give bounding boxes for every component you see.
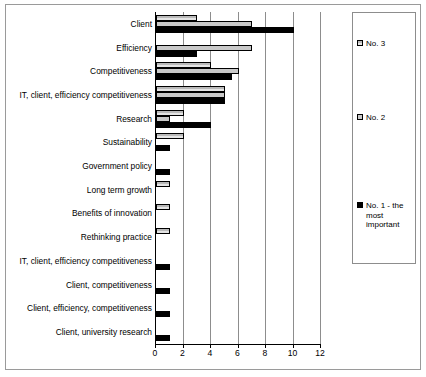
category-label: IT, client, efficiency competitiveness bbox=[19, 90, 152, 100]
bar-no-1-the-most-important bbox=[156, 98, 225, 104]
category-label: Client, university research bbox=[56, 327, 152, 337]
x-tick-mark bbox=[265, 345, 266, 348]
category-label: Client, efficiency, competitiveness bbox=[27, 303, 152, 313]
chart-figure: ClientEfficiencyCompetitivenessIT, clien… bbox=[0, 0, 426, 377]
legend-swatch-icon bbox=[357, 40, 363, 46]
x-tick-mark bbox=[293, 345, 294, 348]
legend-label: No. 1 - the most important bbox=[366, 201, 412, 230]
category-label: IT, client, efficiency competitiveness bbox=[19, 256, 152, 266]
x-tick-mark bbox=[155, 345, 156, 348]
category-label: Long term growth bbox=[87, 185, 152, 195]
category-row: Client, competitiveness bbox=[0, 273, 426, 297]
bar-no-3 bbox=[156, 228, 170, 234]
bar-no-1-the-most-important bbox=[156, 264, 170, 270]
x-tick-label: 12 bbox=[315, 348, 325, 359]
bar-no-1-the-most-important bbox=[156, 311, 170, 317]
bar-no-1-the-most-important bbox=[156, 122, 211, 128]
legend-swatch-icon bbox=[357, 114, 363, 120]
x-tick-mark bbox=[238, 345, 239, 348]
x-tick-label: 10 bbox=[288, 348, 298, 359]
category-label: Client, competitiveness bbox=[66, 280, 152, 290]
x-tick-mark bbox=[320, 345, 321, 348]
x-axis-tick-labels: 024681012 bbox=[0, 348, 426, 362]
bar-no-1-the-most-important bbox=[156, 145, 170, 151]
category-label: Research bbox=[116, 114, 152, 124]
category-label: Rethinking practice bbox=[81, 232, 152, 242]
category-label: Client bbox=[131, 19, 152, 29]
legend-label: No. 3 bbox=[366, 39, 385, 49]
category-row: Client, university research bbox=[0, 320, 426, 344]
category-label: Benefits of innovation bbox=[72, 208, 152, 218]
bar-no-3 bbox=[156, 204, 170, 210]
category-label: Sustainability bbox=[103, 137, 152, 147]
bar-group bbox=[156, 321, 426, 343]
x-tick-label: 0 bbox=[153, 348, 158, 359]
bar-no-1-the-most-important bbox=[156, 51, 197, 57]
bar-group bbox=[156, 297, 426, 319]
category-label: Efficiency bbox=[116, 43, 152, 53]
category-label: Government policy bbox=[82, 161, 152, 171]
bar-no-3 bbox=[156, 133, 184, 139]
x-tick-label: 4 bbox=[208, 348, 213, 359]
bar-no-1-the-most-important bbox=[156, 335, 170, 341]
bar-no-1-the-most-important bbox=[156, 169, 170, 175]
bar-no-3 bbox=[156, 181, 170, 187]
legend-entry[interactable]: No. 1 - the most important bbox=[357, 201, 412, 230]
legend-swatch-icon bbox=[357, 202, 363, 208]
category-row: Client, efficiency, competitiveness bbox=[0, 296, 426, 320]
x-tick-mark bbox=[210, 345, 211, 348]
legend-label: No. 2 bbox=[366, 113, 385, 123]
category-label: Competitiveness bbox=[90, 66, 152, 76]
x-tick-label: 2 bbox=[180, 348, 185, 359]
legend-entry[interactable]: No. 3 bbox=[357, 39, 412, 49]
bar-no-1-the-most-important bbox=[156, 74, 232, 80]
x-tick-mark bbox=[183, 345, 184, 348]
bar-no-1-the-most-important bbox=[156, 288, 170, 294]
x-tick-label: 8 bbox=[263, 348, 268, 359]
bar-group bbox=[156, 274, 426, 296]
chart-legend: No. 3No. 2No. 1 - the most important bbox=[352, 12, 416, 264]
legend-entry[interactable]: No. 2 bbox=[357, 113, 412, 123]
bar-no-1-the-most-important bbox=[156, 27, 294, 33]
x-tick-label: 6 bbox=[235, 348, 240, 359]
